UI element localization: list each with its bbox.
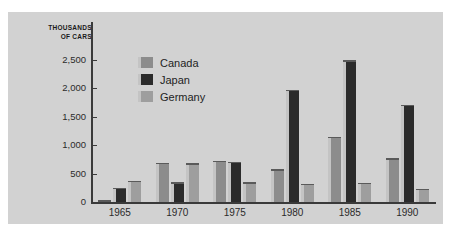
bar-canada-1975 xyxy=(213,161,226,202)
bar-japan-1980 xyxy=(286,90,299,202)
bar-germany-1980 xyxy=(301,184,314,202)
bar-japan-1970 xyxy=(171,182,184,202)
bar-germany-1990 xyxy=(416,189,429,202)
bar-japan-1985 xyxy=(343,60,356,202)
bar-canada-1990 xyxy=(386,158,399,202)
x-tick-label-1980: 1980 xyxy=(267,207,317,218)
chart-plot-area: THOUSANDS OF CARS 05001,0001,5002,0002,5… xyxy=(8,12,443,224)
bar-germany-1970 xyxy=(186,163,199,202)
bar-japan-1975 xyxy=(228,162,241,202)
x-tick-label-1975: 1975 xyxy=(210,207,260,218)
bar-canada-1970 xyxy=(156,163,169,202)
bar-canada-1965 xyxy=(98,200,111,202)
bar-canada-1985 xyxy=(328,137,341,202)
bar-japan-1990 xyxy=(401,105,414,202)
bar-germany-1965 xyxy=(128,181,141,202)
chart-bars-layer xyxy=(8,12,443,224)
x-tick-label-1985: 1985 xyxy=(325,207,375,218)
bar-japan-1965 xyxy=(113,188,126,202)
x-tick-label-1970: 1970 xyxy=(152,207,202,218)
bar-germany-1975 xyxy=(243,182,256,202)
x-tick-label-1965: 1965 xyxy=(95,207,145,218)
bar-canada-1980 xyxy=(271,169,284,202)
x-tick-label-1990: 1990 xyxy=(382,207,432,218)
chart-figure: THOUSANDS OF CARS 05001,0001,5002,0002,5… xyxy=(0,0,462,238)
bar-germany-1985 xyxy=(358,183,371,202)
